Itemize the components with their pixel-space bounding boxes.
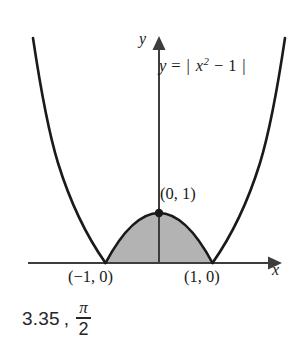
x-axis-label: x xyxy=(272,261,279,279)
y-axis-label: y xyxy=(139,30,146,48)
equation-constant: 1 xyxy=(228,56,237,75)
equation-exponent: 2 xyxy=(204,55,210,67)
fraction-denominator: 2 xyxy=(79,319,89,338)
answer-line: 3.35 , π 2 xyxy=(22,300,91,339)
graph-plot xyxy=(0,0,305,350)
vertex-point-marker xyxy=(155,209,163,217)
y-axis-arrowhead xyxy=(153,36,166,50)
fraction-numerator: π xyxy=(76,299,91,317)
answer-fraction: π 2 xyxy=(76,299,91,338)
equation-base: x xyxy=(196,56,204,75)
vertex-point-label: (0, 1) xyxy=(160,184,196,204)
answer-separator: , xyxy=(64,308,69,330)
answer-value: 3.35 xyxy=(22,308,60,330)
root-right-label: (1, 0) xyxy=(184,267,220,287)
equation-bar-close: | xyxy=(241,56,247,76)
equation-lhs: y xyxy=(159,56,167,75)
curve-left-arm xyxy=(33,38,106,263)
root-left-label: (−1, 0) xyxy=(68,267,113,287)
figure-container: y x y = | x2 − 1 | (0, 1) (−1, 0) (1, 0)… xyxy=(0,0,305,350)
equation-bar-open: | xyxy=(186,56,192,76)
equation-equals: = xyxy=(171,56,181,75)
equation-label: y = | x2 − 1 | xyxy=(159,56,247,76)
equation-minus: − xyxy=(214,56,224,75)
